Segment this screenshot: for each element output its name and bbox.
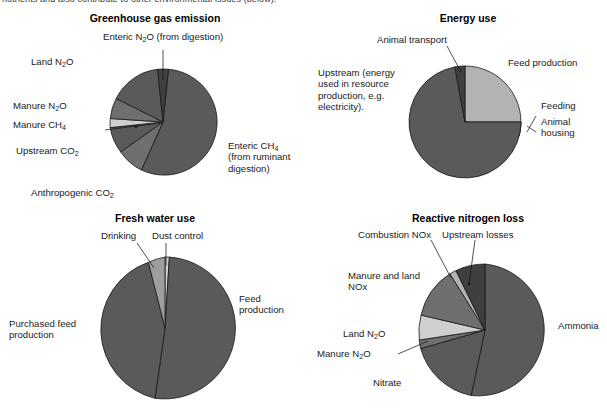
- label-enteric-n2o: Enteric N2O (from digestion): [103, 31, 303, 42]
- pie-slices-nitrogen: [419, 264, 544, 396]
- leader-combustion-nox: [431, 240, 451, 278]
- label-feed-production-water: Feed production: [239, 293, 299, 316]
- cropped-caption-line: nutrients and also contribute to other e…: [0, 0, 607, 5]
- pie-slices-greenhouse: [110, 69, 217, 175]
- chart-greenhouse-gas-emission: Greenhouse gas emission: [0, 8, 303, 208]
- label-land-n2o: Land N2O: [31, 56, 73, 67]
- chart-energy-use: Energy use Animal transport: [303, 8, 607, 208]
- leader-feeding: [527, 116, 536, 132]
- label-upstream-losses: Upstream losses: [442, 229, 513, 240]
- label-nitrate: Nitrate: [373, 377, 401, 388]
- label-feed-production: Feed production: [508, 57, 577, 68]
- pie-slices-water: [101, 257, 236, 399]
- leader-dot-manure-ch4: [135, 125, 138, 128]
- leader-dot-upstream-losses: [468, 283, 471, 286]
- label-animal-housing: Animal housing: [541, 116, 595, 139]
- label-upstream-co2: Upstream CO2: [16, 145, 79, 156]
- label-drinking: Drinking: [101, 230, 136, 241]
- chart-fresh-water-use: Fresh water use Drinking Dust control Fe…: [0, 208, 303, 414]
- label-feeding: Feeding: [541, 100, 576, 111]
- label-ammonia: Ammonia: [558, 320, 599, 331]
- chart-reactive-nitrogen-loss: Reactive nitrogen loss: [303, 208, 607, 414]
- label-upstream-energy: Upstream (energy used in resource produc…: [318, 67, 398, 113]
- label-manure-land-nox: Manure and land NOx: [348, 270, 420, 293]
- label-dust-control: Dust control: [152, 230, 203, 241]
- pie-slices-energy: [409, 66, 521, 178]
- label-manure-n2o: Manure N2O: [13, 100, 67, 111]
- label-anthropogenic-co2: Anthropogenic CO2: [31, 187, 114, 198]
- label-combustion-nox: Combustion NOx: [358, 229, 431, 240]
- label-manure-n2o-n: Manure N2O: [317, 348, 371, 359]
- figure-page: nutrients and also contribute to other e…: [0, 0, 607, 414]
- label-manure-ch4: Manure CH4: [13, 119, 66, 130]
- label-purchased-feed-production: Purchased feed production: [9, 318, 87, 341]
- label-animal-transport: Animal transport: [377, 34, 447, 45]
- label-land-n2o-n: Land N2O: [343, 328, 385, 339]
- label-enteric-ch4: Enteric CH4 (from ruminant digestion): [228, 140, 302, 174]
